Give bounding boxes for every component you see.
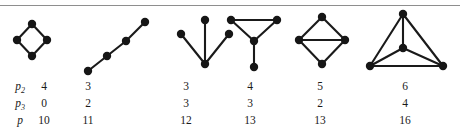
graph-edge (254, 20, 277, 41)
graph-vertex (141, 18, 149, 26)
table-cell-p3-3: 3 (169, 95, 203, 111)
table-row: p101112131316 (0, 112, 460, 128)
table-cell-p3-1: 0 (27, 95, 61, 111)
graph-vertex (399, 10, 407, 18)
path-four-graph (84, 18, 149, 75)
row-label-subscript: 2 (21, 86, 25, 95)
graph-edge (403, 14, 443, 66)
invariant-value-table: p2433456p3023324p101112131316 (0, 78, 460, 136)
graph-vertex (84, 67, 92, 75)
table-cell-p2-3: 3 (169, 78, 203, 94)
graph-diagrams-svg (0, 0, 460, 80)
graph-edge (231, 20, 254, 41)
paw-graph (227, 16, 281, 71)
table-row: p2433456 (0, 78, 460, 94)
graph-vertex (366, 62, 374, 70)
graph-edge (181, 34, 205, 64)
table-cell-p3-6: 4 (388, 95, 422, 111)
table-cell-p2-5: 5 (303, 78, 337, 94)
graph-vertex (177, 30, 185, 38)
graph-vertex (318, 13, 326, 21)
graph-vertex (439, 62, 447, 70)
table-cell-p3-4: 3 (233, 95, 267, 111)
star-three-graph (177, 16, 233, 68)
table-cell-p-3: 12 (169, 112, 203, 128)
cycle-four-graph (13, 20, 51, 60)
graph-vertex (250, 63, 258, 71)
table-row: p3023324 (0, 95, 460, 111)
graph-vertex (399, 44, 407, 52)
diamond-graph (295, 13, 349, 68)
graph-diagram-strip (0, 0, 460, 80)
graph-vertex (225, 30, 233, 38)
graph-edge (299, 17, 322, 40)
graph-vertex (13, 36, 21, 44)
table-cell-p2-2: 3 (71, 78, 105, 94)
table-cell-p-2: 11 (71, 112, 105, 128)
complete-four-graph (366, 10, 447, 70)
graph-edge (322, 40, 345, 64)
graph-edge (322, 17, 345, 40)
table-cell-p2-4: 4 (233, 78, 267, 94)
graph-invariants-figure: p2433456p3023324p101112131316 (0, 0, 460, 136)
table-cell-p-1: 10 (27, 112, 61, 128)
graph-vertex (103, 52, 111, 60)
graph-vertex (28, 52, 36, 60)
table-cell-p-5: 13 (303, 112, 337, 128)
graph-vertex (318, 60, 326, 68)
graph-vertex (201, 16, 209, 24)
table-cell-p2-1: 4 (27, 78, 61, 94)
row-label-subscript: 3 (21, 103, 25, 112)
graph-vertex (43, 36, 51, 44)
table-cell-p2-6: 6 (388, 78, 422, 94)
graph-vertex (295, 36, 303, 44)
graph-vertex (122, 37, 130, 45)
table-cell-p-4: 13 (233, 112, 267, 128)
graph-vertex (273, 16, 281, 24)
graph-vertex (341, 36, 349, 44)
graph-vertex (28, 20, 36, 28)
graph-vertex (201, 60, 209, 68)
table-cell-p3-2: 2 (71, 95, 105, 111)
table-cell-p-6: 16 (388, 112, 422, 128)
graph-vertex (227, 16, 235, 24)
table-cell-p3-5: 2 (303, 95, 337, 111)
graph-edge (370, 14, 403, 66)
graph-edge (299, 40, 322, 64)
graph-vertex (250, 37, 258, 45)
graph-edge (205, 34, 229, 64)
